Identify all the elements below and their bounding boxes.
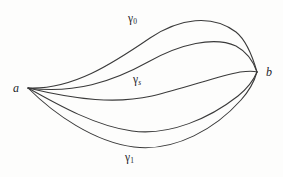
gamma-subscript: s <box>138 78 141 87</box>
gamma-subscript: 1 <box>130 156 134 165</box>
curve-gamma-s <box>28 71 257 100</box>
curve-label-gamma-s: γs <box>133 74 141 86</box>
gamma-subscript: 0 <box>133 17 137 26</box>
vertex-label-b: b <box>266 66 272 78</box>
curve-gamma-1 <box>28 72 257 148</box>
curve-gamma-0 <box>28 21 257 89</box>
curve-group <box>28 21 257 148</box>
vertex-label-a: a <box>13 82 19 94</box>
curve-gamma-lower-mid <box>28 72 257 132</box>
curve-label-gamma-0: γ0 <box>128 13 137 25</box>
curve-gamma-upper-mid <box>28 42 257 90</box>
curve-canvas <box>0 0 283 177</box>
homotopy-diagram: a b γ0 γs γ1 <box>0 0 283 177</box>
curve-label-gamma-1: γ1 <box>125 152 134 164</box>
